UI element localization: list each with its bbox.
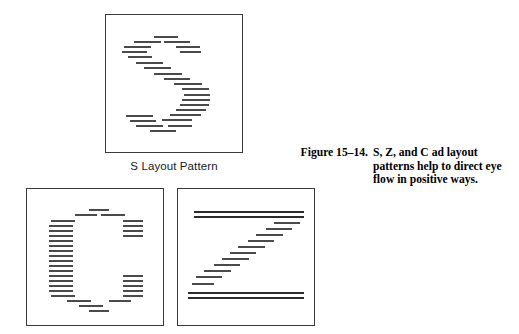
copy-rule [123, 235, 143, 237]
copy-rule [122, 51, 147, 53]
copy-rule [266, 228, 292, 230]
copy-rule [49, 280, 73, 282]
copy-rule [124, 46, 151, 48]
copy-rule [144, 67, 171, 69]
copy-rule [123, 280, 143, 282]
figure-page: S Layout Pattern Figure 15–14. S, Z, and… [0, 0, 519, 334]
copy-rule [136, 125, 163, 127]
figure-caption: Figure 15–14. S, Z, and C ad layout patt… [296, 146, 511, 187]
s-layout-caption: S Layout Pattern [105, 160, 243, 172]
copy-rule [164, 78, 190, 80]
copy-rule [49, 235, 73, 237]
copy-rule [128, 56, 152, 58]
copy-rule [230, 252, 256, 254]
c-pattern-art [27, 189, 163, 325]
copy-rule [256, 234, 283, 236]
copy-rule [222, 258, 249, 260]
copy-rule [49, 285, 73, 287]
copy-rule [196, 276, 222, 278]
s-layout-panel [105, 14, 243, 153]
copy-rule [123, 290, 143, 292]
copy-rule [123, 230, 143, 232]
copy-rule [162, 119, 192, 121]
copy-rule [204, 270, 231, 272]
copy-rule [182, 99, 210, 101]
copy-rule [49, 225, 73, 227]
copy-rule [194, 216, 304, 218]
copy-rule [89, 209, 109, 211]
copy-rule [49, 230, 73, 232]
copy-rule [51, 295, 75, 297]
copy-rule [154, 73, 182, 75]
copy-rule [180, 51, 201, 53]
copy-rule [150, 130, 176, 132]
copy-rule [274, 222, 300, 224]
copy-rule [51, 220, 75, 222]
copy-rule [109, 300, 131, 302]
copy-rule [49, 240, 73, 242]
copy-rule [101, 214, 125, 216]
copy-rule [49, 270, 73, 272]
copy-rule [194, 211, 304, 213]
figure-caption-text: S, Z, and C ad layout patterns help to d… [373, 146, 511, 187]
copy-rule [188, 292, 304, 294]
copy-rule [176, 46, 200, 48]
copy-rule [184, 94, 210, 96]
copy-rule [49, 265, 73, 267]
c-layout-panel [26, 188, 164, 326]
copy-rule [154, 36, 178, 38]
copy-rule [176, 109, 206, 111]
copy-rule [49, 245, 73, 247]
copy-rule [123, 220, 143, 222]
s-pattern-art [106, 15, 242, 152]
copy-rule [180, 104, 209, 106]
copy-rule [49, 290, 73, 292]
copy-rule [182, 88, 209, 90]
copy-rule [49, 250, 73, 252]
copy-rule [49, 260, 73, 262]
figure-number: Figure 15–14. [296, 146, 373, 160]
copy-rule [123, 285, 143, 287]
copy-rule [192, 283, 214, 285]
z-pattern-art [178, 189, 314, 325]
copy-rule [214, 264, 240, 266]
copy-rule [49, 255, 73, 257]
copy-rule [174, 83, 202, 85]
copy-rule [126, 115, 153, 117]
copy-rule [67, 300, 91, 302]
copy-rule [49, 275, 73, 277]
copy-rule [123, 225, 143, 227]
copy-rule [168, 125, 192, 127]
copy-rule [123, 275, 143, 277]
copy-rule [164, 41, 190, 43]
copy-rule [79, 305, 103, 307]
copy-rule [75, 214, 97, 216]
copy-rule [89, 310, 109, 312]
copy-rule [188, 297, 304, 299]
copy-rule [238, 246, 265, 248]
copy-rule [136, 62, 163, 64]
copy-rule [170, 114, 201, 116]
copy-rule [123, 295, 143, 297]
copy-rule [130, 120, 156, 122]
copy-rule [248, 240, 274, 242]
copy-rule [134, 41, 161, 43]
z-layout-panel [177, 188, 315, 326]
